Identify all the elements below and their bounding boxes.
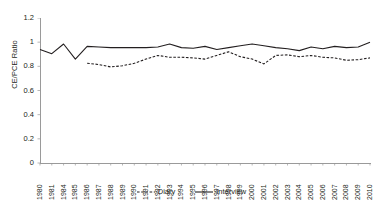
chart-legend: Diary Interview	[0, 188, 383, 196]
y-axis-tick-labels: 1.210.80.60.40.20	[0, 0, 34, 206]
y-tick-label: 0	[0, 159, 34, 167]
legend-swatch-dashed-icon	[137, 189, 155, 195]
y-tick-label: 0.8	[0, 62, 34, 70]
y-tick-label: 0.6	[0, 87, 34, 95]
ce-pce-ratio-line-chart: CE/PCE Ratio 1.210.80.60.40.20 198019811…	[0, 0, 383, 206]
y-tick-label: 1	[0, 38, 34, 46]
y-tick-label: 1.2	[0, 14, 34, 22]
y-tick-label: 0.4	[0, 111, 34, 119]
series-line-diary	[87, 52, 370, 67]
legend-item-interview[interactable]: Interview	[195, 188, 246, 196]
legend-label-diary: Diary	[158, 188, 176, 196]
plot-area	[40, 18, 370, 163]
legend-label-interview: Interview	[216, 188, 246, 196]
legend-swatch-solid-icon	[195, 189, 213, 195]
legend-item-diary[interactable]: Diary	[137, 188, 176, 196]
y-tick-label: 0.2	[0, 135, 34, 143]
series-lines	[37, 18, 373, 167]
